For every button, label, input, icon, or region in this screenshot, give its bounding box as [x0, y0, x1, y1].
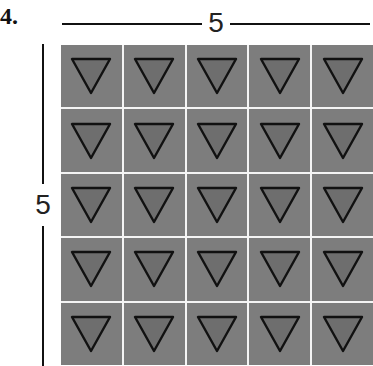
dimension-line: [230, 23, 370, 25]
down-triangle-icon: [69, 56, 113, 96]
down-triangle-icon: [258, 249, 302, 289]
down-triangle-icon: [195, 185, 239, 225]
down-triangle-icon: [321, 121, 365, 161]
down-triangle-icon: [132, 121, 176, 161]
grid-cell: [187, 109, 248, 171]
down-triangle-icon: [258, 185, 302, 225]
grid-cell: [61, 174, 122, 236]
grid-cell: [312, 238, 373, 300]
down-triangle-icon: [258, 56, 302, 96]
dimension-line: [62, 23, 202, 25]
grid-cell: [249, 238, 310, 300]
top-dimension-label: 5: [202, 8, 230, 38]
grid-cell: [124, 109, 185, 171]
down-triangle-icon: [132, 56, 176, 96]
down-triangle-icon: [258, 121, 302, 161]
grid-cell: [249, 174, 310, 236]
grid-cell: [312, 174, 373, 236]
left-dimension: 5: [28, 44, 58, 366]
down-triangle-icon: [132, 185, 176, 225]
down-triangle-icon: [132, 314, 176, 354]
down-triangle-icon: [132, 249, 176, 289]
grid-cell: [187, 238, 248, 300]
grid-cell: [61, 238, 122, 300]
grid-cell: [124, 45, 185, 107]
grid-cell: [61, 109, 122, 171]
grid-cell: [187, 45, 248, 107]
grid-cell: [312, 109, 373, 171]
down-triangle-icon: [321, 314, 365, 354]
problem-number: 4.: [0, 4, 18, 28]
down-triangle-icon: [195, 56, 239, 96]
grid-cell: [187, 303, 248, 365]
grid-cell: [312, 45, 373, 107]
down-triangle-icon: [321, 249, 365, 289]
down-triangle-icon: [195, 121, 239, 161]
down-triangle-icon: [69, 314, 113, 354]
grid-cell: [124, 303, 185, 365]
down-triangle-icon: [195, 249, 239, 289]
grid-cell: [124, 238, 185, 300]
down-triangle-icon: [321, 56, 365, 96]
triangle-grid: [61, 45, 373, 365]
grid-cell: [124, 174, 185, 236]
down-triangle-icon: [69, 185, 113, 225]
dimension-line: [42, 44, 44, 184]
down-triangle-icon: [195, 314, 239, 354]
left-dimension-label: 5: [28, 188, 58, 222]
grid-cell: [61, 303, 122, 365]
down-triangle-icon: [321, 185, 365, 225]
grid-cell: [187, 174, 248, 236]
down-triangle-icon: [258, 314, 302, 354]
grid-cell: [249, 45, 310, 107]
down-triangle-icon: [69, 249, 113, 289]
grid-cell: [312, 303, 373, 365]
down-triangle-icon: [69, 121, 113, 161]
grid-cell: [249, 109, 310, 171]
grid-cell: [61, 45, 122, 107]
dimension-line: [42, 226, 44, 366]
grid-cell: [249, 303, 310, 365]
top-dimension: 5: [62, 8, 370, 38]
